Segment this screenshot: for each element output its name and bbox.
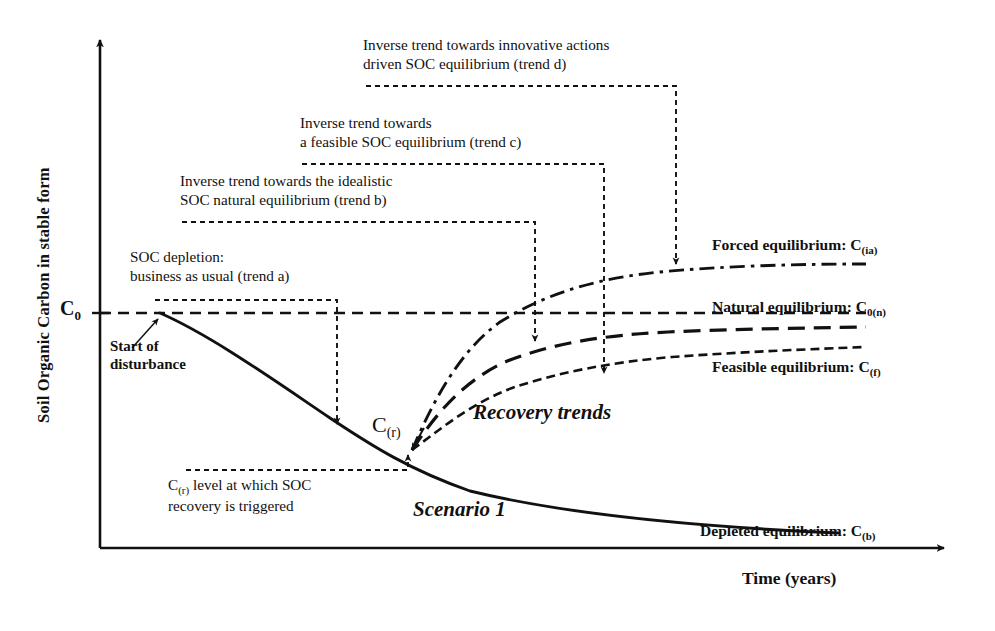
forced-equilibrium-subscript: (ia) (862, 244, 878, 256)
y-axis-title: Soil Organic Carbon in stable form (34, 85, 54, 505)
annotation-trend-a-line1: SOC depletion: (130, 248, 289, 267)
cr-note-symbol: C (168, 476, 178, 493)
annotation-trend-b: Inverse trend towards the idealistic SOC… (180, 172, 393, 209)
x-axis-title: Time (years) (742, 568, 836, 589)
forced-equilibrium-text: Forced equilibrium: (712, 236, 850, 253)
natural-equilibrium-text: Natural equilibrium: (712, 298, 856, 315)
label-recovery-trends: Recovery trends (473, 400, 611, 426)
label-forced-equilibrium: Forced equilibrium: C(ia) (712, 235, 877, 258)
annotation-cr-level: C(r) level at which SOC recovery is trig… (168, 476, 311, 516)
cr-note-subscript: (r) (178, 484, 189, 496)
annotation-trend-b-line2: SOC natural equilibrium (trend b) (180, 191, 393, 210)
annotation-cr-level-line1: C(r) level at which SOC (168, 476, 311, 497)
cr-note-rest: level at which SOC (189, 476, 311, 493)
curve-label-cr: C(r) (372, 412, 401, 441)
label-natural-equilibrium: Natural equilibrium: C0(n) (712, 297, 886, 320)
leader-trend-d (366, 86, 676, 264)
natural-equilibrium-symbol: C (856, 298, 867, 315)
c0-symbol: C (60, 297, 74, 319)
start-of-disturbance-line2: disturbance (110, 355, 186, 373)
annotation-start-of-disturbance: Start of disturbance (110, 337, 186, 373)
leader-cr-note (186, 455, 408, 470)
curve-label-cr-subscript: (r) (387, 425, 401, 440)
annotation-cr-level-line2: recovery is triggered (168, 497, 311, 516)
annotation-trend-d: Inverse trend towards innovative actions… (363, 36, 609, 73)
depleted-equilibrium-symbol: C (851, 522, 862, 539)
annotation-trend-a: SOC depletion: business as usual (trend … (130, 248, 289, 285)
feasible-equilibrium-symbol: C (858, 358, 869, 375)
c0-subscript: 0 (74, 308, 81, 323)
forced-equilibrium-symbol: C (850, 236, 861, 253)
annotation-trend-a-line2: business as usual (trend a) (130, 267, 289, 286)
annotation-trend-c-line2: a feasible SOC equilibrium (trend c) (300, 133, 521, 152)
annotation-trend-d-line1: Inverse trend towards innovative actions (363, 36, 609, 55)
depleted-equilibrium-subscript: (b) (862, 530, 875, 542)
annotation-trend-d-line2: driven SOC equilibrium (trend d) (363, 55, 609, 74)
recovery-curve-natural (412, 327, 866, 450)
start-of-disturbance-line1: Start of (110, 337, 186, 355)
feasible-equilibrium-text: Feasible equilibrium: (712, 358, 858, 375)
curve-label-cr-symbol: C (372, 412, 387, 437)
label-feasible-equilibrium: Feasible equilibrium: C(f) (712, 357, 881, 380)
y-axis-tick-label: C0 (60, 296, 81, 324)
feasible-equilibrium-subscript: (f) (870, 366, 881, 378)
label-depleted-equilibrium: Depleted equilibrium: C(b) (700, 521, 875, 544)
annotation-trend-c-line1: Inverse trend towards (300, 114, 521, 133)
label-scenario-1: Scenario 1 (413, 497, 506, 523)
depleted-equilibrium-text: Depleted equilibrium: (700, 522, 851, 539)
annotation-trend-b-line1: Inverse trend towards the idealistic (180, 172, 393, 191)
natural-equilibrium-subscript: 0(n) (867, 306, 886, 318)
annotation-trend-c: Inverse trend towards a feasible SOC equ… (300, 114, 521, 151)
